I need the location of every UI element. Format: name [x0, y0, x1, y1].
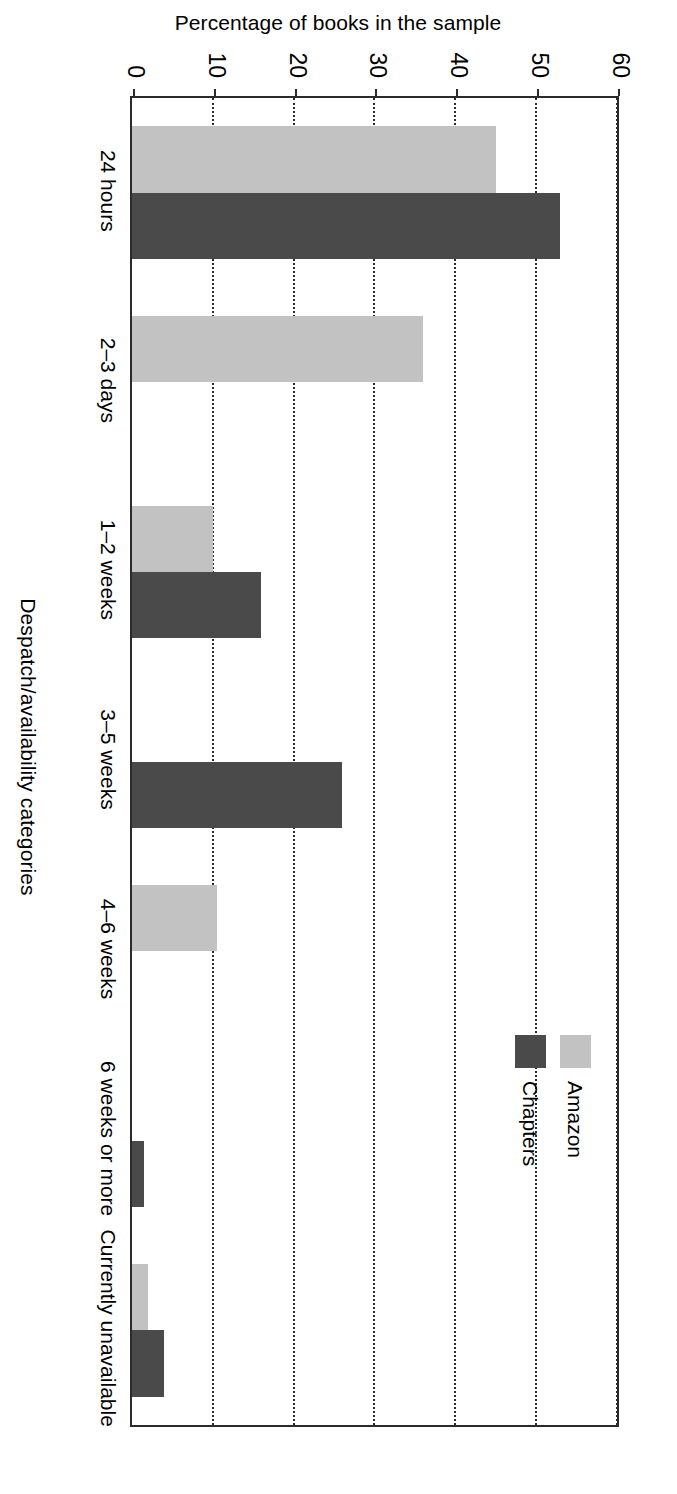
- bar-amazon-6: [132, 1264, 148, 1330]
- bar-chapters-0: [132, 193, 560, 259]
- plot-inner: [132, 98, 617, 1425]
- category-label: 6 weeks or more: [96, 1061, 120, 1216]
- bar-chapters-2: [132, 572, 261, 638]
- legend-item-amazon[interactable]: Amazon: [560, 1035, 591, 1166]
- y-axis-tick-mark: [376, 89, 378, 96]
- y-axis-tick-mark: [618, 89, 620, 96]
- category-label: Currently unavailable: [96, 1230, 120, 1427]
- chart-legend: AmazonChapters: [515, 1035, 591, 1166]
- x-axis-title: Despatch/availability categories: [16, 0, 40, 1494]
- y-axis-tick-label: 40: [445, 52, 472, 78]
- y-axis-tick-mark: [133, 89, 135, 96]
- rotated-figure-canvas: Percentage of books in the sample 010203…: [0, 0, 677, 1494]
- bar-chart-figure: Percentage of books in the sample 010203…: [0, 0, 677, 1494]
- gridline: [374, 98, 376, 1425]
- y-axis-tick-label: 60: [607, 52, 634, 78]
- plot-area: [130, 96, 619, 1427]
- bar-amazon-1: [132, 316, 423, 382]
- legend-item-chapters[interactable]: Chapters: [515, 1035, 546, 1166]
- category-label: 2–3 days: [96, 338, 120, 423]
- y-axis-tick-mark: [214, 89, 216, 96]
- y-axis-tick-mark: [295, 89, 297, 96]
- gridline: [454, 98, 456, 1425]
- category-label: 1–2 weeks: [96, 520, 120, 620]
- y-axis-tick-label: 30: [365, 52, 392, 78]
- legend-label: Chapters: [519, 1081, 543, 1166]
- legend-label: Amazon: [564, 1081, 588, 1158]
- y-axis-tick-label: 0: [122, 65, 149, 78]
- gridline: [616, 98, 618, 1425]
- legend-swatch-icon-chapters: [515, 1035, 546, 1068]
- legend-swatch-icon-amazon: [560, 1035, 591, 1068]
- y-axis-tick-label: 50: [526, 52, 553, 78]
- y-axis-tick-mark: [537, 89, 539, 96]
- bar-chapters-3: [132, 762, 342, 828]
- bar-chapters-5: [132, 1141, 144, 1207]
- bar-amazon-4: [132, 885, 217, 951]
- category-label: 4–6 weeks: [96, 899, 120, 999]
- bar-amazon-0: [132, 126, 496, 192]
- y-axis-tick-label: 20: [284, 52, 311, 78]
- category-label: 24 hours: [96, 150, 120, 232]
- bar-chapters-6: [132, 1330, 164, 1396]
- bar-amazon-2: [132, 506, 213, 572]
- y-axis-tick-label: 10: [203, 52, 230, 78]
- y-axis-tick-mark: [456, 89, 458, 96]
- category-label: 3–5 weeks: [96, 709, 120, 809]
- y-axis-title-container: Percentage of books in the sample: [0, 6, 677, 40]
- y-axis-title: Percentage of books in the sample: [175, 11, 502, 35]
- gridline: [535, 98, 537, 1425]
